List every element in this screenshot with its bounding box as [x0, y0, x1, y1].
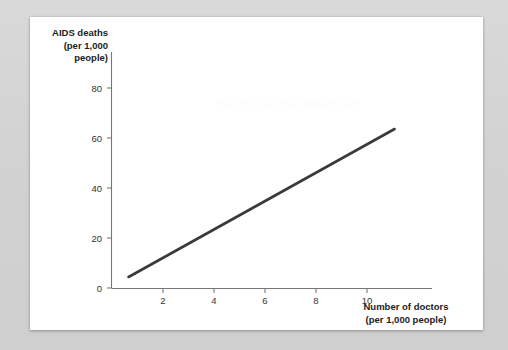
x-tick-label-2: 2 [160, 295, 165, 306]
y-axis-tick-labels: 0 20 40 60 80 [91, 83, 102, 294]
x-tick-label-6: 6 [262, 295, 267, 306]
y-tick-label-20: 20 [91, 233, 102, 244]
data-series-line [129, 129, 395, 277]
y-tick-label-0: 0 [97, 283, 102, 294]
x-axis-ticks [163, 289, 367, 294]
x-axis-title: Number of doctors (per 1,000 people) [333, 301, 479, 326]
x-tick-label-4: 4 [211, 295, 216, 306]
y-tick-label-60: 60 [91, 133, 102, 144]
y-tick-label-80: 80 [91, 83, 102, 94]
y-axis-ticks [107, 88, 112, 288]
y-tick-label-40: 40 [91, 183, 102, 194]
y-axis-title: AIDS deaths (per 1,000 people) [26, 27, 108, 65]
x-tick-label-8: 8 [313, 295, 318, 306]
